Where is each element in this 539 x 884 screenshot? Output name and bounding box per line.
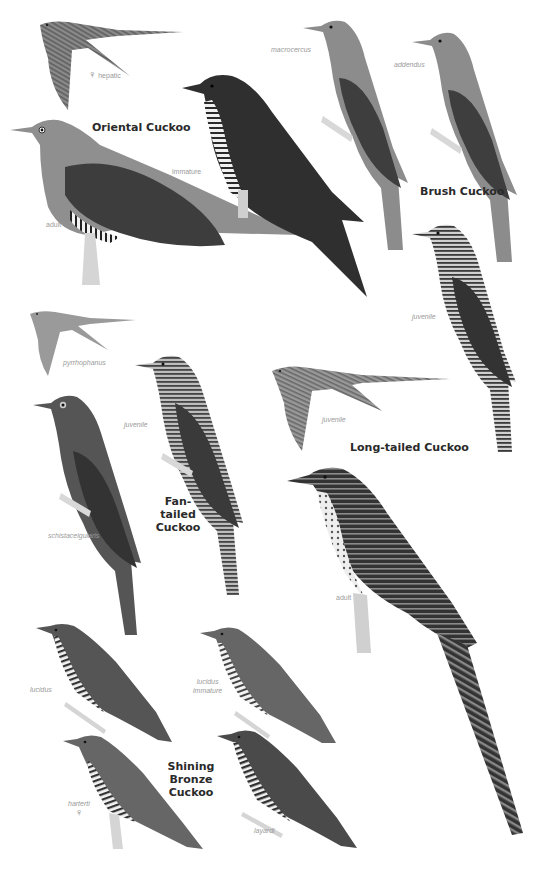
label-line1: lucidus	[193, 677, 222, 686]
label-long-tailed-juvenile: juvenile	[322, 415, 346, 424]
species-title-line1: Fan-tailed	[148, 495, 208, 521]
oriental-cuckoo-hepatic-flight-illustration	[38, 18, 188, 113]
field-guide-plate: ♀ hepatic Oriental Cuckoo adult immature…	[0, 0, 539, 884]
fan-tailed-cuckoo-pyrrhophanus-flight-illustration	[30, 310, 140, 380]
label-oriental-hepatic: ♀ hepatic	[88, 70, 121, 80]
label-shining-bronze-lucidus: lucidus	[30, 685, 52, 694]
female-symbol: ♀	[68, 808, 90, 817]
label-shining-bronze-lucidus-immature: lucidus immature	[193, 677, 222, 695]
label-shining-bronze-harterti: harterti ♀	[68, 799, 90, 817]
shining-bronze-cuckoo-lucidus-illustration	[36, 622, 176, 744]
label-brush-addendus: addendus	[394, 60, 425, 69]
label-line2: immature	[193, 686, 222, 695]
shining-bronze-cuckoo-layardi-illustration	[217, 728, 362, 850]
label-fan-tailed-juvenile: juvenile	[124, 420, 148, 429]
fan-tailed-cuckoo-schistaceigularis-illustration	[33, 393, 148, 638]
label-shining-bronze-layardi: layardi	[254, 826, 275, 835]
species-title-brush-cuckoo: Brush Cuckoo	[420, 185, 504, 198]
label-brush-macrocercus: macrocercus	[271, 45, 311, 54]
label-brush-juvenile: juvenile	[412, 312, 436, 321]
long-tailed-cuckoo-juvenile-flight-illustration	[272, 363, 452, 453]
fan-tailed-cuckoo-juvenile-illustration	[135, 353, 250, 598]
label-oriental-adult: adult	[46, 220, 61, 229]
label-fan-tailed-schistaceigularis: schistaceigularis	[48, 531, 99, 540]
brush-cuckoo-macrocercus-illustration	[303, 18, 413, 253]
label-fan-tailed-pyrrhophanus: pyrrhophanus	[63, 358, 106, 367]
species-title-long-tailed-cuckoo: Long-tailed Cuckoo	[350, 441, 469, 454]
species-title-line2: Cuckoo	[148, 521, 208, 534]
species-title-fan-tailed-cuckoo: Fan-tailed Cuckoo	[148, 495, 208, 534]
label-oriental-immature: immature	[172, 167, 201, 176]
label-long-tailed-adult: adult	[336, 593, 351, 602]
